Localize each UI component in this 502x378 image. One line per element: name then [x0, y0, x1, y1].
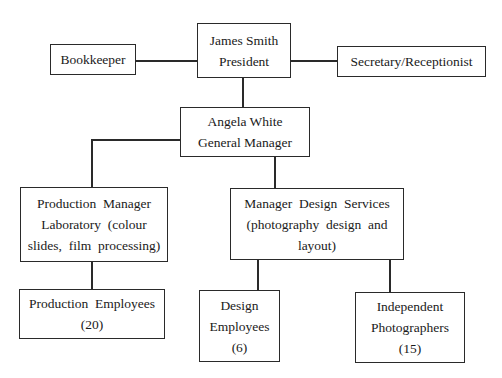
connector-gm-production-h — [91, 139, 180, 141]
node-secretary-line-1: Secretary/Receptionist — [350, 51, 472, 72]
node-design-employees-line-2: Employees — [210, 316, 270, 337]
node-bookkeeper-line-1: Bookkeeper — [60, 49, 125, 70]
node-production-employees: Production Employees (20) — [19, 289, 165, 339]
node-design-manager-line-1: Manager Design Services — [244, 193, 389, 214]
node-bookkeeper: Bookkeeper — [50, 44, 136, 75]
node-production-manager-line-3: slides, film processing) — [28, 235, 160, 256]
node-production-manager: Production Manager Laboratory (colour sl… — [20, 187, 168, 262]
connector-production-employees — [91, 261, 93, 289]
node-design-manager-line-3: layout) — [298, 235, 336, 256]
node-design-manager-line-2: (photography design and — [247, 214, 388, 235]
node-production-manager-line-2: Laboratory (colour — [41, 214, 147, 235]
node-design-manager: Manager Design Services (photography des… — [230, 188, 404, 260]
node-independent-photographers-line-3: (15) — [399, 338, 422, 359]
node-independent-photographers-line-1: Independent — [377, 296, 444, 317]
node-design-employees-line-3: (6) — [232, 337, 248, 358]
node-general-manager: Angela White General Manager — [180, 107, 310, 157]
node-production-employees-line-2: (20) — [81, 314, 104, 335]
node-design-employees-line-1: Design — [220, 295, 258, 316]
node-production-manager-line-1: Production Manager — [37, 193, 151, 214]
node-design-employees: Design Employees (6) — [199, 290, 280, 362]
connector-president-general-manager — [242, 77, 244, 107]
node-secretary: Secretary/Receptionist — [337, 46, 486, 77]
node-general-manager-line-1: Angela White — [207, 111, 282, 132]
connector-independent-photographers — [389, 259, 391, 292]
node-president-line-2: President — [219, 51, 269, 72]
node-president: James Smith President — [197, 23, 291, 78]
node-independent-photographers-line-2: Photographers — [371, 317, 449, 338]
node-general-manager-line-2: General Manager — [198, 132, 292, 153]
connector-gm-design — [274, 156, 276, 188]
connector-president-secretary — [290, 60, 337, 62]
node-production-employees-line-1: Production Employees — [29, 293, 155, 314]
node-independent-photographers: Independent Photographers (15) — [355, 292, 465, 363]
connector-president-bookkeeper — [135, 60, 197, 62]
connector-design-employees — [257, 259, 259, 290]
node-president-line-1: James Smith — [210, 30, 279, 51]
connector-gm-production-v — [91, 139, 93, 187]
